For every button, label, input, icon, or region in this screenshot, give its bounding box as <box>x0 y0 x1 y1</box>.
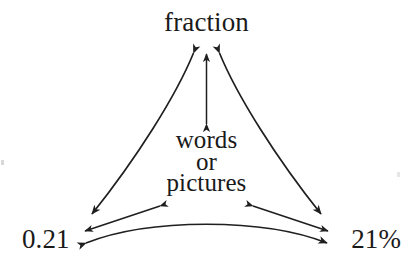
node-label-words-or-pictures: words or pictures <box>0 129 413 194</box>
node-label-decimal: 0.21 <box>22 226 70 253</box>
node-label-fraction: fraction <box>0 9 413 36</box>
node-label-percent: 21% <box>351 226 401 253</box>
diagram-figure: fraction words or pictures 0.21 21% <box>0 0 413 265</box>
center-line-pictures: pictures <box>0 172 413 194</box>
connector-decimal-percent <box>86 224 327 243</box>
scan-artifact-right <box>397 172 400 177</box>
scan-artifact-left <box>1 160 4 165</box>
